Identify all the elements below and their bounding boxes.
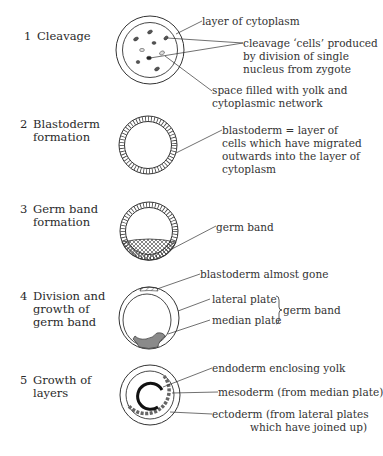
stage-1-embryo	[116, 16, 243, 91]
blastoderm-remnant	[140, 287, 158, 291]
cleavage-nuclei	[133, 29, 169, 71]
stage-3-embryo	[120, 202, 216, 260]
stage-4-embryo	[119, 274, 282, 349]
endoderm-yolk	[138, 383, 162, 409]
germ-band-brace	[276, 296, 282, 324]
germ-band-plates	[133, 333, 165, 349]
stage-5-embryo	[120, 365, 218, 425]
germ-band-shape	[122, 239, 176, 260]
stage-2-embryo	[119, 116, 222, 174]
